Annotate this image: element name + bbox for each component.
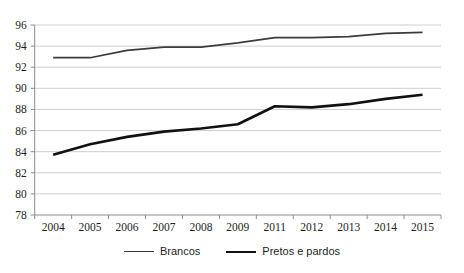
legend-swatch-pretos-e-pardos <box>226 251 256 253</box>
chart-legend: Brancos Pretos e pardos <box>0 246 464 257</box>
x-tick-label: 2007 <box>152 221 175 233</box>
x-axis-labels: 2004200520062007200820092011201220132014… <box>42 221 435 233</box>
y-tick-label: 88 <box>15 103 27 115</box>
y-tick-label: 78 <box>15 209 27 221</box>
y-tick-label: 96 <box>15 19 27 31</box>
y-tick-label: 80 <box>15 188 27 200</box>
gridlines <box>35 25 441 194</box>
legend-item-brancos[interactable]: Brancos <box>124 246 200 257</box>
y-tick-label: 92 <box>15 61 27 73</box>
chart-plot-area: 78808284868890929496 2004200520062007200… <box>0 0 464 273</box>
x-tick-label: 2005 <box>79 221 102 233</box>
series-line-pretos-e-pardos <box>53 95 422 155</box>
legend-item-pretos-e-pardos[interactable]: Pretos e pardos <box>226 246 340 257</box>
legend-label-pretos-e-pardos: Pretos e pardos <box>262 246 340 257</box>
legend-label-brancos: Brancos <box>160 246 200 257</box>
y-tick-label: 90 <box>15 82 27 94</box>
y-tick-label: 86 <box>15 125 27 137</box>
x-tick-label: 2008 <box>189 221 212 233</box>
series-lines <box>53 32 422 154</box>
x-tick-label: 2014 <box>374 221 397 233</box>
y-tick-label: 84 <box>15 146 27 158</box>
x-axis-ticks <box>35 215 441 219</box>
x-tick-label: 2009 <box>226 221 249 233</box>
x-tick-label: 2015 <box>411 221 434 233</box>
series-line-brancos <box>53 32 422 57</box>
y-axis-ticks <box>31 25 35 215</box>
x-tick-label: 2004 <box>42 221 65 233</box>
x-tick-label: 2011 <box>263 221 286 233</box>
y-tick-label: 82 <box>15 167 27 179</box>
x-tick-label: 2006 <box>116 221 139 233</box>
y-tick-label: 94 <box>15 40 27 52</box>
x-tick-label: 2012 <box>300 221 323 233</box>
legend-swatch-brancos <box>124 251 154 252</box>
line-chart: 78808284868890929496 2004200520062007200… <box>0 0 464 273</box>
y-axis-labels: 78808284868890929496 <box>15 19 27 221</box>
x-tick-label: 2013 <box>337 221 360 233</box>
